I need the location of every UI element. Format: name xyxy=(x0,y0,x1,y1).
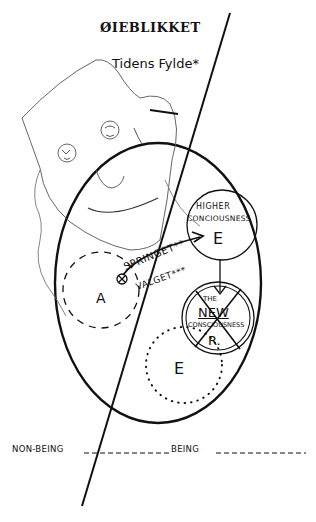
higher-e-letter: E xyxy=(213,231,223,247)
crossed-circle-origin xyxy=(117,274,127,284)
dashed-a-letter: A xyxy=(96,291,106,305)
dotted-e-letter: E xyxy=(174,361,184,377)
being-label: BEING xyxy=(171,445,199,454)
new-label: NEW xyxy=(198,306,229,319)
diagram-title: ØIEBLIKKET xyxy=(100,21,201,34)
new-the-label: THE xyxy=(203,296,217,303)
down-arrow xyxy=(214,259,226,294)
higher-label: HIGHER xyxy=(196,203,230,211)
diagram-subtitle: Tidens Fylde* xyxy=(112,57,199,70)
new-consciousness-label: CONSCIOUSNESS xyxy=(188,322,244,329)
non-being-label: NON-BEING xyxy=(12,445,64,454)
new-r-letter: R. xyxy=(208,334,221,347)
higher-consciousness-circle xyxy=(187,190,257,260)
higher-consciousness-label: CONCIOUSNESS xyxy=(187,215,251,223)
